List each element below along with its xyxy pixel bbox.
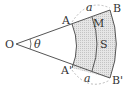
label-a-bottom: a <box>84 72 91 85</box>
label-a: A <box>61 14 71 27</box>
label-theta: θ <box>34 38 41 51</box>
angle-theta-arc <box>30 39 31 49</box>
label-b: B <box>113 2 121 15</box>
label-m: M <box>93 17 104 30</box>
label-a-prime: A' <box>60 64 72 77</box>
label-b-prime: B' <box>112 74 123 87</box>
label-o: O <box>5 38 14 51</box>
label-a-top: a <box>86 1 93 14</box>
sector-diagram: O θ A B A' B' M S a a <box>0 0 132 87</box>
label-s: S <box>100 38 108 51</box>
